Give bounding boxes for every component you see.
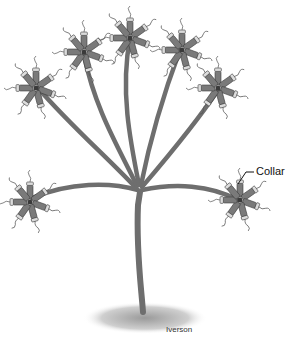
cell-cluster [186,56,249,120]
collar-label: Collar [256,165,285,177]
main-stalk [138,192,143,312]
illustration-canvas: Collar Iverson [0,0,290,347]
cell-cluster [150,18,213,82]
cell-cluster [208,168,271,232]
cell-cluster [0,170,61,234]
cell-cluster [52,20,115,84]
cell-cluster [98,6,161,70]
artist-credit: Iverson [166,325,192,334]
branches [32,38,238,200]
colony-illustration [0,0,290,347]
